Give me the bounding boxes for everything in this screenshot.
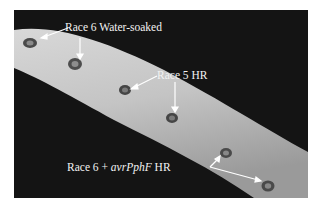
lesion-hr-avr-2 [262, 181, 275, 192]
label-suffix: HR [152, 161, 171, 173]
label-prefix: Race 6 + [67, 161, 111, 173]
lesion-hr-race5-1 [119, 85, 131, 95]
label-water-soaked: Race 6 Water-soaked [65, 22, 162, 34]
label-race5-hr: Race 5 HR [157, 70, 207, 82]
lesion-hr-race5-2 [166, 113, 178, 123]
label-race6-avrpphf-hr: Race 6 + avrPphF HR [67, 162, 171, 174]
lesion-water-soaked-1 [23, 38, 37, 48]
lesion-hr-avr-1 [220, 148, 232, 158]
gene-name: avrPphF [111, 161, 152, 173]
bean-pod-photo: Race 6 Water-soaked Race 5 HR Race 6 + a… [14, 10, 308, 198]
